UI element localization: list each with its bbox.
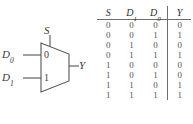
- table-row: 1 0 0 0: [97, 60, 191, 70]
- cell-d1: 1: [120, 40, 144, 50]
- column-header-d1: D1: [120, 6, 144, 20]
- cell-s: 0: [97, 20, 120, 31]
- table-row: 0 0 1 1: [97, 30, 191, 40]
- d0-label-subscript: 0: [10, 56, 14, 65]
- y-label-text: Y: [79, 59, 85, 71]
- cell-d1: 0: [120, 30, 144, 40]
- mux-port-label-0: 0: [44, 50, 49, 60]
- cell-d1: 0: [120, 70, 144, 80]
- cell-d0: 1: [143, 50, 167, 60]
- cell-s: 0: [97, 50, 120, 60]
- cell-s: 1: [97, 90, 120, 100]
- column-header-d0-subscript: 0: [157, 15, 161, 23]
- cell-y: 1: [168, 50, 191, 60]
- cell-s: 0: [97, 30, 120, 40]
- column-header-s-base: S: [106, 7, 111, 18]
- table-row: 1 1 0 1: [97, 80, 191, 90]
- table-row: 0 0 0 0: [97, 20, 191, 31]
- column-header-d0: D0: [143, 6, 167, 20]
- cell-d1: 1: [120, 50, 144, 60]
- d1-label-subscript: 1: [10, 79, 14, 88]
- cell-d0: 1: [143, 90, 167, 100]
- cell-d1: 1: [120, 90, 144, 100]
- cell-y: 1: [168, 80, 191, 90]
- y-output-label: Y: [79, 60, 85, 71]
- cell-d1: 0: [120, 20, 144, 31]
- table-row: 0 1 0 0: [97, 40, 191, 50]
- column-header-y-base: Y: [177, 7, 183, 18]
- column-header-d1-subscript: 1: [133, 15, 137, 23]
- cell-d1: 1: [120, 80, 144, 90]
- cell-s: 1: [97, 70, 120, 80]
- cell-s: 0: [97, 40, 120, 50]
- d0-label-base: D: [2, 48, 10, 60]
- cell-d0: 0: [143, 80, 167, 90]
- d1-input-label: D1: [2, 72, 14, 83]
- table-row: 1 1 1 1: [97, 90, 191, 100]
- figure-canvas: S D0 D1 Y 0 1 S D1: [0, 0, 193, 124]
- cell-y: 0: [168, 20, 191, 31]
- cell-y: 1: [168, 30, 191, 40]
- column-header-s: S: [97, 6, 120, 20]
- cell-d0: 1: [143, 70, 167, 80]
- cell-y: 0: [168, 70, 191, 80]
- multiplexer-diagram: S D0 D1 Y 0 1: [0, 0, 95, 124]
- cell-y: 1: [168, 90, 191, 100]
- select-label-text: S: [44, 24, 50, 36]
- cell-d0: 0: [143, 40, 167, 50]
- truth-table: S D1 D0 Y 0 0 0: [97, 6, 191, 100]
- column-header-y: Y: [168, 6, 191, 20]
- cell-y: 0: [168, 60, 191, 70]
- truth-table-container: S D1 D0 Y 0 0 0: [95, 6, 193, 118]
- mux-port-label-1: 1: [44, 73, 49, 83]
- select-signal-label: S: [44, 25, 50, 36]
- cell-y: 0: [168, 40, 191, 50]
- d1-label-base: D: [2, 71, 10, 83]
- cell-s: 1: [97, 60, 120, 70]
- d0-input-label: D0: [2, 49, 14, 60]
- table-row: 0 1 1 1: [97, 50, 191, 60]
- table-row: 1 0 1 0: [97, 70, 191, 80]
- cell-d0: 1: [143, 30, 167, 40]
- truth-table-header-row: S D1 D0 Y: [97, 6, 191, 20]
- truth-table-body: 0 0 0 0 0 0 1 1 0 1 0 0 0: [97, 20, 191, 101]
- cell-s: 1: [97, 80, 120, 90]
- cell-d0: 0: [143, 20, 167, 31]
- cell-d1: 0: [120, 60, 144, 70]
- cell-d0: 0: [143, 60, 167, 70]
